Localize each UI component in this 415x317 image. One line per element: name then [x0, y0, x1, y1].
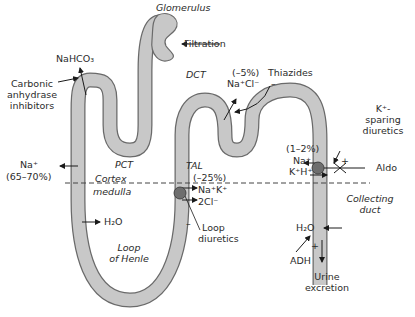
- carbonic-anhydrase-label: Carbonic anhydrase inhibitors: [6, 78, 58, 111]
- cd-percent: (1–2%): [286, 143, 319, 154]
- loop-sign: –: [186, 218, 191, 229]
- adh-plus: +: [311, 240, 319, 251]
- filtration-label: Filtration: [184, 38, 226, 49]
- tal-ion2: 2Cl⁻: [198, 196, 218, 207]
- urine-excretion-label: Urine excretion: [302, 271, 352, 293]
- tal-ion1: Na⁺K⁺: [198, 184, 227, 195]
- pct-percent: (65–70%): [6, 171, 51, 182]
- pct-h2o-label: H₂O: [104, 216, 122, 227]
- thiazides-label: Thiazides: [268, 67, 313, 78]
- glomerulus-label: Glomerulus: [156, 2, 210, 13]
- loop-of-henle-label: Loop of Henle: [104, 242, 154, 264]
- adh-label: ADH: [290, 255, 311, 266]
- cd-kh: K⁺H⁺: [289, 166, 312, 177]
- loop-diuretics-label: Loop diuretics: [198, 222, 239, 244]
- cd-h2o-label: H₂O: [296, 222, 314, 233]
- k-sparing-label: K⁺- sparing diuretics: [358, 103, 408, 136]
- dct-percent: (–5%): [232, 67, 259, 78]
- adh-arrow: [296, 236, 310, 252]
- cortex-label: Cortex: [95, 173, 127, 184]
- enac-transporter: [312, 162, 324, 174]
- collecting-duct-label: Collecting duct: [340, 193, 400, 215]
- tal-label: TAL: [186, 160, 203, 171]
- dct-ion: Na⁺Cl⁻: [227, 78, 259, 89]
- tal-percent: (–25%): [193, 172, 226, 183]
- thiazides-sign: –: [271, 78, 276, 89]
- pct-label: PCT: [115, 159, 133, 170]
- nkcc2-transporter: [174, 187, 186, 199]
- glomerulus-capsule: [152, 14, 177, 61]
- k-sparing-arrow: [334, 151, 340, 163]
- aldo-label: Aldo: [376, 162, 397, 173]
- pct-na-label: Na⁺: [20, 159, 38, 170]
- cd-na: Na⁺: [293, 155, 311, 166]
- medulla-label: medulla: [93, 186, 131, 197]
- nahco3-label: NaHCO₃: [56, 53, 94, 64]
- cd-plus: +: [341, 155, 349, 166]
- dct-label: DCT: [186, 69, 206, 80]
